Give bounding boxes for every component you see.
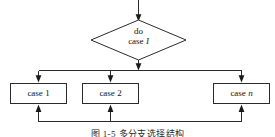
flowchart-figure: do case I case 1 case 2 case n 图 1-5 多分支… xyxy=(0,0,275,137)
arrow-down-icon xyxy=(108,75,114,82)
distribution-bus xyxy=(36,71,245,83)
arrow-down-icon xyxy=(36,75,42,82)
decision-exit-connector xyxy=(136,60,142,71)
merge-bus xyxy=(36,105,245,122)
arrow-down-icon xyxy=(239,75,245,82)
figure-caption: 图 1-5 多分支选择结构 xyxy=(0,127,275,137)
flowchart-canvas xyxy=(0,0,275,137)
branch-box-n xyxy=(214,84,270,104)
decision-diamond xyxy=(91,20,186,60)
arrow-up-icon xyxy=(239,105,245,113)
arrow-up-icon xyxy=(108,105,114,113)
branch-box-2 xyxy=(83,84,139,104)
arrow-up-icon xyxy=(36,105,42,113)
branch-box-1 xyxy=(11,84,67,104)
entry-connector xyxy=(136,0,142,22)
arrow-down-icon xyxy=(136,63,142,70)
